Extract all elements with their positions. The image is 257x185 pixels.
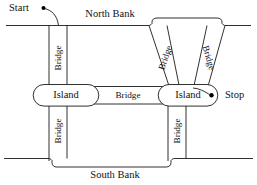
diagram-canvas: Bridge Bridge Bridge Bridge Bridge xyxy=(0,0,257,185)
north-bank-label: North Bank xyxy=(85,8,135,19)
start-label: Start xyxy=(9,2,29,13)
south-bank-group xyxy=(4,159,253,168)
bridge-se-label: Bridge xyxy=(172,118,182,143)
bridge-nw-label: Bridge xyxy=(53,45,63,70)
start-leader-curve xyxy=(45,9,59,26)
start-dot xyxy=(42,6,46,10)
bridge-ne-right-label: Bridge xyxy=(201,44,218,71)
bridge-sw-label: Bridge xyxy=(53,118,63,143)
bridge-ne-left-label: Bridge xyxy=(156,44,174,71)
island-right-group: Island xyxy=(158,85,218,107)
island-left-label: Island xyxy=(53,89,79,100)
island-right-label: Island xyxy=(175,89,201,100)
south-bank-shoreline xyxy=(4,159,253,168)
island-left-group: Island xyxy=(33,85,99,107)
bridge-middle-group: Bridge xyxy=(92,87,165,105)
konigsberg-bridge-diagram: Bridge Bridge Bridge Bridge Bridge xyxy=(0,0,257,185)
stop-label: Stop xyxy=(225,89,244,100)
stop-dot xyxy=(209,93,213,97)
south-bank-label: South Bank xyxy=(90,169,140,180)
start-marker-group: Start xyxy=(9,2,59,26)
bridge-middle-label: Bridge xyxy=(115,90,140,100)
